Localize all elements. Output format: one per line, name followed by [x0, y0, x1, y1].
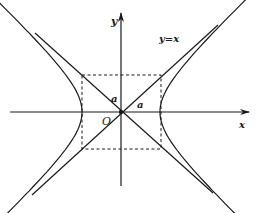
hyperbola-left-branch — [0, 0, 82, 213]
asymptote-label: y=x — [158, 33, 180, 44]
y-axis-label: y — [110, 15, 119, 28]
semi-axis-label-a-right: a — [137, 99, 143, 110]
origin-point — [119, 110, 123, 114]
semi-axis-label-a-left: a — [111, 93, 117, 104]
x-axis-label: x — [238, 119, 246, 130]
asymptote-negative-slope — [35, 33, 213, 193]
origin-label: O — [102, 115, 111, 128]
asymptote-positive-slope — [32, 25, 218, 195]
hyperbola-diagram: y x O y=x a a — [0, 0, 260, 213]
diagram-svg: y x O y=x a a — [0, 0, 260, 213]
